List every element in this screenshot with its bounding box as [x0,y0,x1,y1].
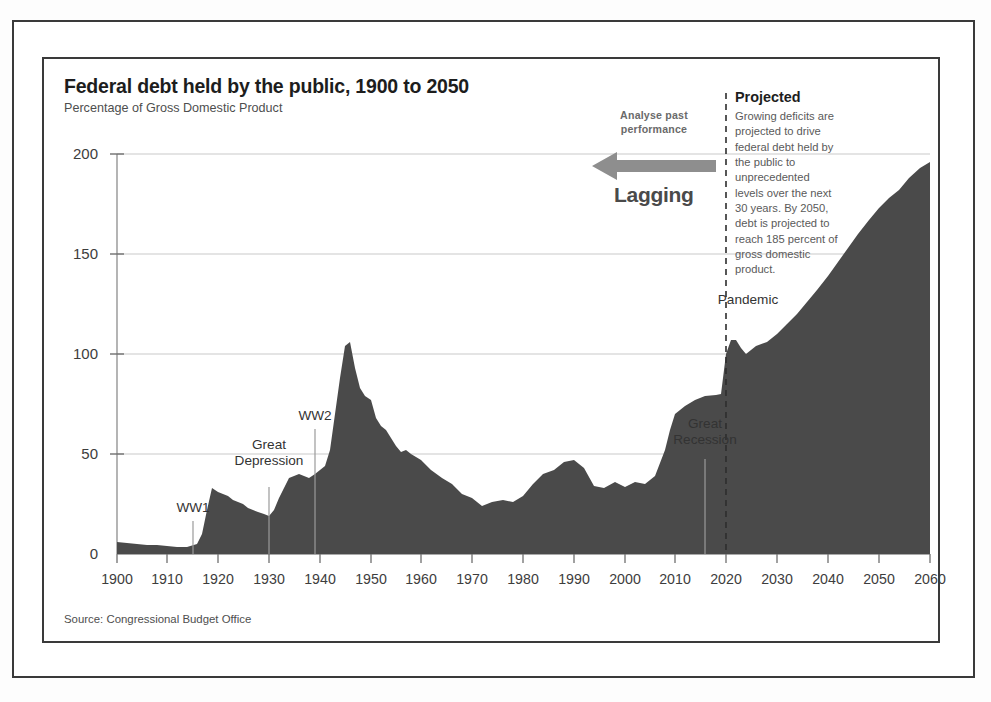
lagging-label: Lagging [614,183,694,207]
y-tick-label: 50 [52,445,98,462]
lagging-arrow-icon [592,152,716,180]
y-tick-label: 200 [52,145,98,162]
x-tick-label: 1930 [242,571,296,587]
x-tick-label: 2000 [598,571,652,587]
x-tick-label: 2050 [852,571,906,587]
event-label-ww1: WW1 [164,500,222,516]
y-tick-label: 100 [52,345,98,362]
x-tick-label: 1900 [90,571,144,587]
analyse-past-performance-note: Analyse past performance [595,109,713,136]
plot-area: 200 150 100 50 0 1900 1910 1920 1930 194… [44,59,942,645]
x-tick-label: 1910 [140,571,194,587]
x-tick-label: 2010 [648,571,702,587]
event-label-pandemic: Pandemic [697,292,799,308]
y-tick-label: 150 [52,245,98,262]
chart-panel: Federal debt held by the public, 1900 to… [42,57,940,643]
x-tick-label: 1960 [394,571,448,587]
y-tick-label: 0 [52,545,98,562]
x-tick-label: 2020 [699,571,753,587]
x-tick-label: 1920 [191,571,245,587]
x-tick-label: 2030 [750,571,804,587]
event-label-great-depression: Great Depression [226,437,312,469]
projected-description: Growing deficits are projected to drive … [735,109,839,278]
event-label-great-recession: Great Recession [657,416,753,448]
x-tick-label: 2040 [801,571,855,587]
projected-heading: Projected [735,89,801,105]
x-tick-label: 1970 [445,571,499,587]
x-tick-label: 2060 [903,571,957,587]
x-tick-label: 1980 [496,571,550,587]
chart-panel-inner: Federal debt held by the public, 1900 to… [44,59,938,641]
x-ticks [117,554,930,563]
event-label-ww2: WW2 [286,408,344,424]
screenshot-root: Federal debt held by the public, 1900 to… [0,0,991,702]
x-tick-label: 1950 [344,571,398,587]
x-tick-label: 1990 [547,571,601,587]
x-tick-label: 1940 [293,571,347,587]
